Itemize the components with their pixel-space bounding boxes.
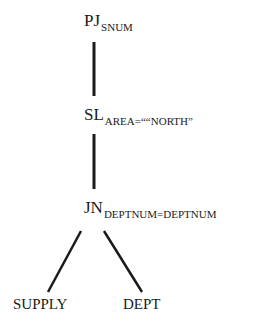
leaf-dept: DEPT — [123, 297, 161, 312]
operator-label: JN — [84, 198, 103, 217]
node-join: JNDEPTNUM=DEPTNUM — [84, 199, 216, 216]
node-projection: PJSNUM — [84, 12, 133, 29]
leaf-supply: SUPPLY — [13, 297, 67, 312]
operator-subscript: DEPTNUM=DEPTNUM — [104, 208, 217, 220]
node-selection: SLAREA=““NORTH” — [84, 106, 193, 123]
edge-jn-dept — [104, 231, 142, 292]
operator-label: SL — [84, 105, 104, 124]
operator-label: PJ — [84, 11, 100, 30]
operator-subscript: SNUM — [101, 21, 133, 33]
operator-subscript: AREA=““NORTH” — [105, 115, 193, 127]
edge-jn-supply — [48, 231, 81, 292]
tree-edges — [0, 0, 261, 326]
